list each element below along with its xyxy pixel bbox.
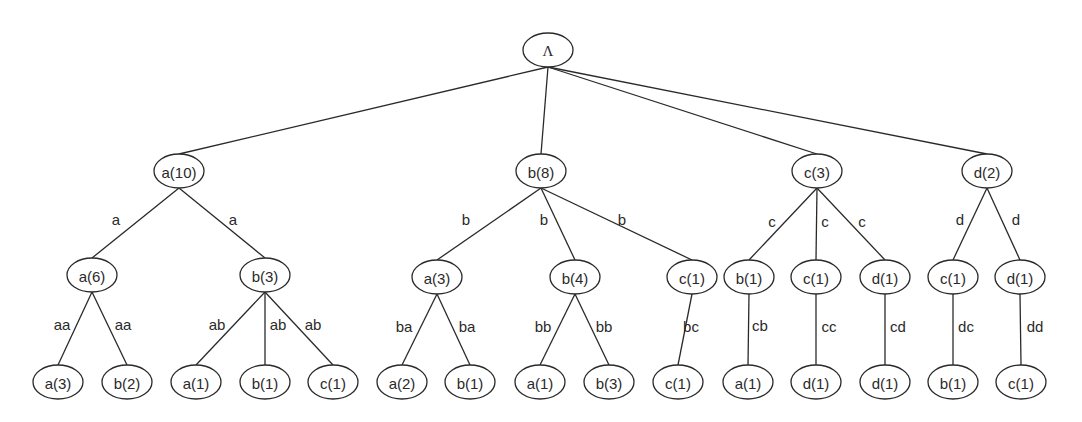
node-label: d(2) (974, 164, 1001, 181)
edge-root-n_d (548, 67, 987, 154)
edge-label: aa (54, 316, 71, 333)
tree-node: b(2) (102, 365, 152, 399)
edge-label: ba (396, 318, 413, 335)
node-label: a(1) (527, 375, 554, 392)
edge-label: a (112, 211, 121, 228)
edge-label: a (229, 211, 238, 228)
node-label: a(1) (735, 375, 762, 392)
edge-root-n_c (548, 67, 817, 154)
edge-n_a-n_aa (92, 188, 179, 258)
tree-node: b(4) (550, 260, 600, 294)
tree-node: d(1) (860, 260, 910, 294)
node-label: c(1) (940, 270, 966, 287)
tree-node: b(1) (445, 365, 495, 399)
node-label: c(1) (665, 375, 691, 392)
node-label: a(6) (79, 268, 106, 285)
tree-node: a(6) (67, 258, 117, 292)
tree-node: a(3) (33, 365, 83, 399)
root-node: Λ (523, 33, 573, 67)
edge-label: bb (535, 318, 552, 335)
node-label: b(1) (457, 375, 484, 392)
tree-node: d(1) (791, 365, 841, 399)
edge-n_b-n_bc (541, 188, 692, 260)
edge-label: c (821, 213, 829, 230)
node-label: b(3) (252, 268, 279, 285)
tree-node: c(1) (996, 365, 1046, 399)
edge-label: ab (270, 316, 287, 333)
tree-node: d(1) (860, 365, 910, 399)
node-label: b(4) (562, 270, 589, 287)
node-label: d(1) (803, 375, 830, 392)
tree-node: a(1) (515, 365, 565, 399)
node-label: b(1) (252, 375, 279, 392)
edge-n_c-n_cb (749, 188, 817, 260)
edge-n_cb-n_cba (748, 294, 749, 365)
edge-label: aa (115, 316, 132, 333)
node-label: a(3) (45, 375, 72, 392)
node-label: b(3) (596, 375, 623, 392)
edge-label: ab (305, 316, 322, 333)
edge-label: dc (958, 318, 974, 335)
tree-node: c(3) (792, 154, 842, 188)
tree-node: c(1) (667, 260, 717, 294)
edge-root-n_a (179, 67, 548, 154)
edge-label: c (768, 213, 776, 230)
node-label: b(1) (940, 375, 967, 392)
edge-n_b-n_ba (437, 188, 541, 260)
edge-label: ab (209, 316, 226, 333)
node-label: a(10) (161, 164, 196, 181)
edge-label: ba (459, 318, 476, 335)
tree-node: c(1) (928, 260, 978, 294)
tree-svg: aabbbcccddaaaaabababbababbbbbccbcccddcdd… (0, 0, 1082, 422)
node-label: c(1) (679, 270, 705, 287)
edge-label: c (858, 213, 866, 230)
edge-label: cb (752, 317, 768, 334)
edge-n_dd-n_ddc (1020, 294, 1021, 365)
tree-node: b(3) (240, 258, 290, 292)
edge-label: cc (822, 318, 838, 335)
edge-label: d (1012, 211, 1020, 228)
edge-root-n_b (541, 67, 548, 154)
tree-node: a(1) (723, 365, 773, 399)
edge-label: dd (1027, 318, 1044, 335)
edge-label: b (540, 211, 548, 228)
node-label: c(1) (803, 270, 829, 287)
edge-n_a-n_ab (179, 188, 265, 258)
node-label: b(8) (528, 164, 555, 181)
edge-label: b (462, 211, 470, 228)
tree-node: b(1) (724, 260, 774, 294)
tree-node: b(1) (240, 365, 290, 399)
node-label: d(1) (872, 375, 899, 392)
tree-node: a(3) (412, 260, 462, 294)
node-label: b(2) (114, 375, 141, 392)
edge-label: d (956, 211, 964, 228)
edge-n_c-n_cc (816, 188, 817, 260)
tree-node: c(1) (791, 260, 841, 294)
tree-node: a(1) (171, 365, 221, 399)
node-label: c(1) (1008, 375, 1034, 392)
node-label: c(3) (804, 164, 830, 181)
node-label: a(2) (389, 375, 416, 392)
edge-label: b (618, 211, 626, 228)
tree-node: c(1) (308, 365, 358, 399)
tree-node: a(10) (154, 154, 204, 188)
tree-node: a(2) (377, 365, 427, 399)
node-label: Λ (543, 43, 554, 59)
tree-node: d(2) (962, 154, 1012, 188)
node-label: d(1) (872, 270, 899, 287)
node-label: d(1) (1007, 270, 1034, 287)
node-label: a(3) (424, 270, 451, 287)
node-label: b(1) (736, 270, 763, 287)
tree-node: d(1) (995, 260, 1045, 294)
edge-label: bb (596, 318, 613, 335)
edge-label: bc (683, 318, 699, 335)
prefix-tree-diagram: aabbbcccddaaaaabababbababbbbbccbcccddcdd… (0, 0, 1082, 422)
tree-node: b(8) (516, 154, 566, 188)
tree-node: c(1) (653, 365, 703, 399)
tree-node: b(1) (928, 365, 978, 399)
node-label: a(1) (183, 375, 210, 392)
node-label: c(1) (320, 375, 346, 392)
tree-node: b(3) (584, 365, 634, 399)
edge-label: cd (890, 318, 906, 335)
edge-n_ab-n_aba (196, 292, 265, 365)
